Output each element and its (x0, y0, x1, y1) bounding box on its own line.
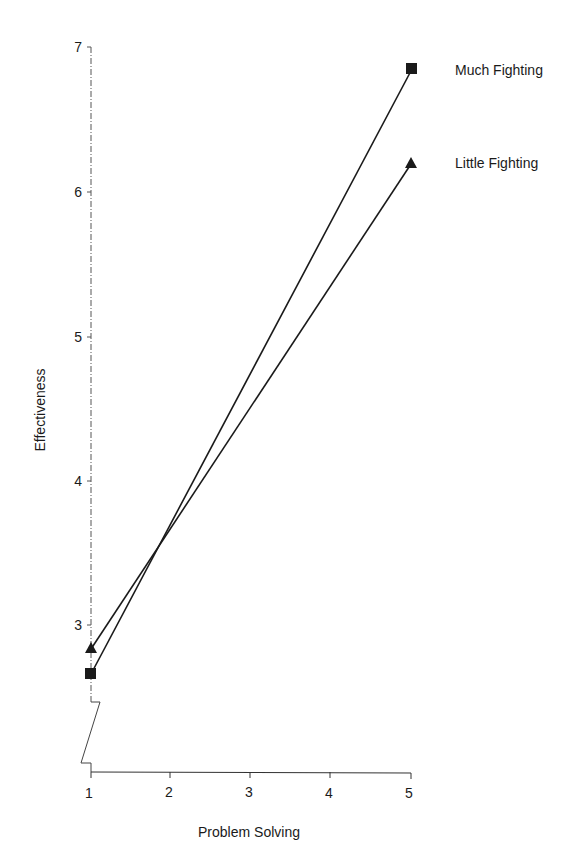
y-axis-title: Effectiveness (32, 368, 48, 451)
y-axis-break (81, 702, 100, 772)
square-marker (85, 668, 96, 679)
svg-text:6: 6 (74, 184, 82, 200)
x-axis-title: Problem Solving (198, 824, 300, 840)
svg-text:1: 1 (85, 785, 93, 801)
series-little-fighting (85, 157, 417, 653)
legend-little-fighting: Little Fighting (455, 155, 538, 171)
svg-text:5: 5 (405, 785, 413, 801)
svg-text:3: 3 (74, 617, 82, 633)
svg-text:4: 4 (325, 785, 333, 801)
series-much-fighting (85, 63, 417, 679)
legend-much-fighting: Much Fighting (455, 62, 543, 78)
svg-text:4: 4 (74, 473, 82, 489)
y-ticks (87, 47, 91, 625)
x-tick-labels: 1 2 3 4 5 (85, 784, 413, 801)
svg-text:2: 2 (165, 784, 173, 800)
svg-text:3: 3 (245, 784, 253, 800)
svg-text:5: 5 (74, 329, 82, 345)
svg-text:7: 7 (74, 39, 82, 55)
square-marker (406, 63, 417, 74)
triangle-marker (405, 157, 417, 168)
chart: 7 6 5 4 3 1 2 3 4 5 Problem Solving Effe… (0, 0, 588, 865)
y-tick-labels: 7 6 5 4 3 (74, 39, 82, 633)
x-axis (91, 772, 411, 773)
